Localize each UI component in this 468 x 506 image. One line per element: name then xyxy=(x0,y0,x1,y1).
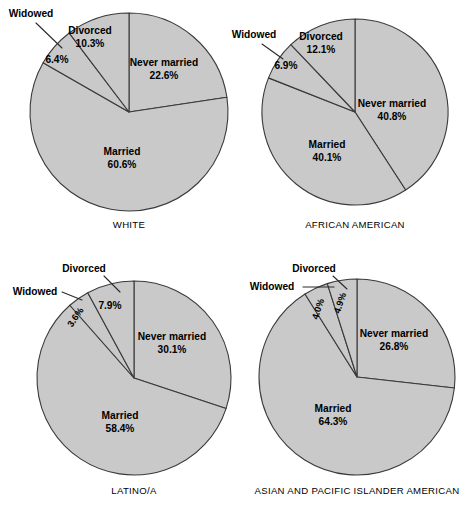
married-label: Married58.4% xyxy=(102,410,139,434)
widowed-percent-label: 6.4% xyxy=(45,54,68,65)
widowed-label: Widowed xyxy=(232,29,277,40)
widowed-label: Widowed xyxy=(13,286,58,297)
divorced-label: Divorced xyxy=(62,263,106,274)
chart-caption-asian-pacific-islander: ASIAN AND PACIFIC ISLANDER AMERICAN xyxy=(255,485,460,496)
pie-chart-asian-pacific-islander: Never married26.8%Married64.3%4.9%Divorc… xyxy=(250,263,460,496)
divorced-label: Divorced xyxy=(292,263,336,274)
married-label: Married40.1% xyxy=(309,139,346,163)
married-label: Married60.6% xyxy=(104,146,141,170)
chart-caption-latino: LATINO/A xyxy=(111,485,157,496)
chart-caption-african-american: AFRICAN AMERICAN xyxy=(305,219,405,230)
widowed-leader xyxy=(36,23,62,48)
widowed-leader xyxy=(262,44,283,59)
divorced-percent-label: 7.9% xyxy=(98,300,121,311)
widowed-label: Widowed xyxy=(9,8,54,19)
chart-caption-white: WHITE xyxy=(113,219,145,230)
marital-status-pie-figure: Never married22.6%Married60.6%Divorced10… xyxy=(0,0,468,506)
married-label: Married64.3% xyxy=(315,403,352,427)
widowed-leader xyxy=(62,292,82,300)
pie-chart-white: Never married22.6%Married60.6%Divorced10… xyxy=(9,8,228,230)
pie-chart-african-american: Never married40.8%Married40.1%Divorced12… xyxy=(232,19,448,230)
pie-charts-canvas: Never married22.6%Married60.6%Divorced10… xyxy=(0,0,468,506)
widowed-percent-label: 6.9% xyxy=(274,60,297,71)
widowed-label: Widowed xyxy=(250,281,295,292)
pie-chart-latino: Never married30.1%Married58.4%7.9%Divorc… xyxy=(13,263,231,496)
